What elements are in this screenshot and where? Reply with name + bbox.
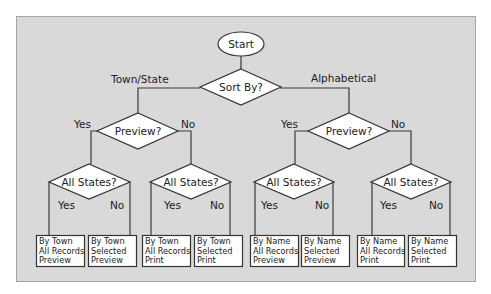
yes-label: Yes — [280, 118, 298, 130]
outcome-line: By Name — [360, 236, 397, 246]
yes-label: Yes — [379, 199, 397, 211]
outcome-line: Preview — [39, 255, 71, 265]
outcome-line: By Town — [197, 236, 231, 246]
outcome-line: Print — [145, 255, 165, 265]
outcome-line: By Name — [304, 236, 341, 246]
outcome-line: Print — [197, 255, 217, 265]
outcome-box-4: By Town Selected Print — [195, 236, 243, 267]
preview-label: Preview? — [326, 125, 372, 137]
yes-label: Yes — [73, 118, 91, 130]
outcome-line: All Records — [39, 246, 84, 256]
preview-label: Preview? — [115, 125, 161, 137]
branch-alphabetical-label: Alphabetical — [311, 72, 376, 84]
yes-label: Yes — [57, 199, 75, 211]
no-label: No — [181, 118, 195, 130]
no-label: No — [315, 199, 329, 211]
no-label: No — [110, 199, 124, 211]
start-label: Start — [228, 38, 254, 50]
all-states-label: All States? — [383, 176, 438, 188]
outcome-line: By Town — [145, 236, 179, 246]
outcome-line: Selected — [411, 246, 447, 256]
outcome-line: Selected — [304, 246, 340, 256]
no-label: No — [391, 118, 405, 130]
yes-label: Yes — [260, 199, 278, 211]
outcome-box-8: By Name Selected Print — [409, 236, 457, 267]
outcome-line: By Town — [91, 236, 125, 246]
outcome-line: By Name — [411, 236, 448, 246]
outcome-line: Selected — [91, 246, 127, 256]
sort-by-label: Sort By? — [219, 81, 263, 93]
outcome-line: By Town — [39, 236, 73, 246]
outcome-box-7: By Name All Records Print — [358, 236, 406, 267]
outcome-box-6: By Name Selected Preview — [302, 236, 350, 267]
outcome-box-3: By Town All Records Print — [143, 236, 191, 267]
outcome-box-5: By Name All Records Preview — [251, 236, 299, 267]
start-node: Start — [218, 32, 264, 56]
outcome-line: Preview — [304, 255, 336, 265]
flowchart: Start Sort By? Town/State Alphabetical P… — [0, 0, 491, 294]
outcome-line: All Records — [253, 246, 298, 256]
outcome-line: Print — [360, 255, 380, 265]
outcome-line: By Name — [253, 236, 290, 246]
outcome-line: Print — [411, 255, 431, 265]
no-label: No — [210, 199, 224, 211]
outcome-line: All Records — [145, 246, 190, 256]
all-states-label: All States? — [163, 176, 218, 188]
branch-town-state-label: Town/State — [110, 73, 169, 85]
outcome-line: Preview — [253, 255, 285, 265]
outcome-box-1: By Town All Records Preview — [37, 236, 85, 267]
all-states-label: All States? — [61, 176, 116, 188]
outcome-line: All Records — [360, 246, 405, 256]
yes-label: Yes — [163, 199, 181, 211]
no-label: No — [429, 199, 443, 211]
outcome-box-2: By Town Selected Preview — [89, 236, 137, 267]
outcome-line: Selected — [197, 246, 233, 256]
all-states-label: All States? — [266, 176, 321, 188]
outcome-line: Preview — [91, 255, 123, 265]
